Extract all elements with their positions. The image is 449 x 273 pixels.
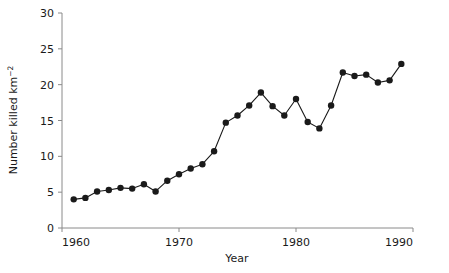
x-axis-tick-label: 1990: [385, 236, 413, 249]
data-point: [386, 77, 392, 83]
data-point: [223, 119, 229, 125]
data-point: [71, 196, 77, 202]
data-point: [129, 185, 135, 191]
data-point: [328, 102, 334, 108]
x-axis-tick-label: 1960: [62, 236, 90, 249]
y-axis-tick-label: 10: [40, 150, 54, 163]
data-point: [82, 195, 88, 201]
data-point: [351, 73, 357, 79]
y-axis-tick-label: 5: [47, 186, 54, 199]
chart-background: [0, 0, 449, 273]
y-axis-tick-label: 15: [40, 115, 54, 128]
data-point: [398, 61, 404, 67]
data-point: [199, 161, 205, 167]
data-point: [258, 89, 264, 95]
data-point: [234, 112, 240, 118]
data-point: [340, 69, 346, 75]
x-axis-tick-label: 1970: [165, 236, 193, 249]
chart-figure: 051015202530 1960197019801990 Year Numbe…: [0, 0, 449, 273]
data-point: [375, 79, 381, 85]
y-axis-tick-label: 0: [47, 222, 54, 235]
data-point: [305, 119, 311, 125]
data-point: [188, 165, 194, 171]
data-point: [117, 185, 123, 191]
data-point: [141, 181, 147, 187]
y-axis-tick-label: 25: [40, 43, 54, 56]
data-point: [164, 178, 170, 184]
x-axis-title: Year: [224, 252, 249, 265]
y-axis-title: Number killed km−2: [6, 65, 20, 174]
data-point: [176, 171, 182, 177]
y-axis-title-text: Number killed km: [7, 77, 20, 175]
data-point: [106, 187, 112, 193]
data-point: [281, 112, 287, 118]
y-axis-tick-label: 30: [40, 7, 54, 20]
data-point: [94, 188, 100, 194]
data-point: [152, 188, 158, 194]
data-point: [211, 148, 217, 154]
data-point: [363, 71, 369, 77]
y-axis-title-superscript: −2: [6, 65, 15, 76]
svg-text:Number killed km−2: Number killed km−2: [6, 65, 20, 174]
data-point: [316, 125, 322, 131]
data-point: [269, 103, 275, 109]
data-point: [246, 102, 252, 108]
data-point: [293, 96, 299, 102]
y-axis-tick-label: 20: [40, 79, 54, 92]
x-axis-tick-label: 1980: [282, 236, 310, 249]
line-chart: 051015202530 1960197019801990 Year Numbe…: [0, 0, 449, 273]
